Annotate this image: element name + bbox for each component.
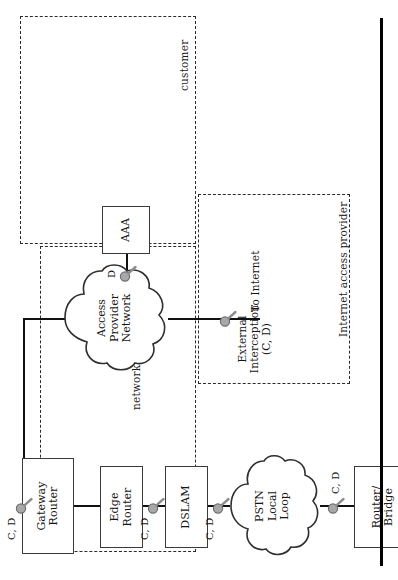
node-gateway-router[interactable]: Gateway Router xyxy=(22,458,74,554)
diagram-canvas: network operator Internet access provide… xyxy=(0,0,398,580)
cloud-pstn-line1: PSTN xyxy=(253,490,266,522)
node-router-bridge[interactable]: Router/ Bridge xyxy=(354,466,398,548)
page-edge-rule xyxy=(380,18,383,566)
zone-internet-access-provider-label: Internet access provider xyxy=(337,202,349,337)
tap-dslam-downstream-label: C, D xyxy=(204,518,215,540)
wire-edge-dslam xyxy=(143,505,165,507)
wire-pstn-routerbridge xyxy=(320,505,354,507)
node-aaa[interactable]: AAA xyxy=(102,206,150,254)
cloud-access-provider-line2: Provider xyxy=(108,294,121,342)
wire-gateway-edge xyxy=(74,505,100,507)
node-router-bridge-line2: Bridge xyxy=(383,486,395,529)
cloud-pstn-line3: Loop xyxy=(278,492,291,520)
wire-dslam-pstn xyxy=(208,505,230,507)
cloud-access-provider-line1: Access xyxy=(95,299,108,337)
tap-gateway-router-label: C, D xyxy=(6,518,17,540)
tap-dslam-upstream-label: C, D xyxy=(139,518,150,540)
annotation-external-interception: External Interception (C, D) xyxy=(236,300,272,378)
tap-local-loop-customer-label: C, D xyxy=(330,472,341,494)
annotation-external-interception-line2: Interception xyxy=(248,305,260,373)
node-dslam[interactable]: DSLAM xyxy=(165,466,208,548)
zone-customer-label: customer xyxy=(178,40,190,91)
tap-aaa-label: D xyxy=(106,270,117,278)
node-gateway-router-line2: Router xyxy=(48,481,60,530)
annotation-external-interception-line1: External xyxy=(236,315,248,362)
cloud-pstn-line2: Local xyxy=(266,491,279,521)
cloud-pstn-label: PSTN Local Loop xyxy=(254,452,292,560)
node-dslam-label: DSLAM xyxy=(180,485,192,528)
annotation-external-interception-line3: (C, D) xyxy=(260,323,272,355)
cloud-access-provider-line3: Network xyxy=(120,294,133,343)
cloud-access-provider-label: Access Provider Network xyxy=(96,262,134,374)
node-edge-router-line2: Router xyxy=(122,488,134,527)
cloud-pstn-local-loop: PSTN Local Loop xyxy=(228,452,322,560)
node-edge-router-line1: Edge xyxy=(109,488,121,527)
network-diagram-figure: network operator Internet access provide… xyxy=(0,0,398,580)
node-aaa-label: AAA xyxy=(120,218,132,242)
cloud-access-provider-network: Access Provider Network xyxy=(62,262,172,374)
node-edge-router[interactable]: Edge Router xyxy=(100,466,143,548)
zone-internet-access-provider xyxy=(198,194,350,384)
